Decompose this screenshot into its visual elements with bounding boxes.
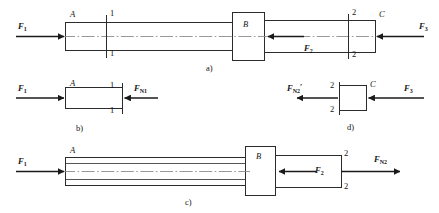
panel-d-prime-mark: ′ — [300, 82, 302, 92]
panel-d-section-label-2-top: 2 — [330, 81, 334, 90]
panel-b-section-label-1-top: 1 — [110, 81, 114, 90]
panel-a-geometry — [16, 13, 424, 61]
panel-a-block-b-label: B — [243, 20, 248, 29]
panel-a-section-label-2-top: 2 — [352, 8, 356, 17]
panel-d-point-c-label: C — [370, 80, 376, 89]
panel-c-caption: c) — [185, 198, 192, 207]
panel-c-block-b-label: B — [256, 152, 261, 161]
panel-d-force-f3-label: F3 — [404, 84, 413, 93]
panel-a-point-a-label: A — [70, 10, 75, 19]
panel-a-point-c-label: C — [379, 10, 385, 19]
panel-a-section-label-1-bottom: 1 — [110, 49, 114, 58]
panel-d-section-label-2-bottom: 2 — [330, 105, 334, 114]
panel-b-force-f1-label: F1 — [18, 84, 27, 93]
panel-c-force-fn2-label: FN2 — [374, 155, 387, 164]
panel-b-section-label-1-bottom: 1 — [110, 106, 114, 115]
panel-a-caption: a) — [206, 64, 213, 73]
panel-a-force-f3-label: F3 — [419, 22, 428, 31]
panel-b-force-fn1-label: FN1 — [134, 84, 147, 93]
panel-a-section-label-1-top: 1 — [110, 9, 114, 18]
panel-c-section-label-2-bottom: 2 — [344, 182, 348, 191]
panel-d-caption: d) — [347, 123, 354, 132]
panel-a-section-label-2-bottom: 2 — [352, 50, 356, 59]
panel-a-force-f2-label: F2 — [304, 44, 313, 53]
panel-c-force-f1-label: F1 — [18, 157, 27, 166]
panel-a-force-f1-label: F1 — [18, 22, 27, 31]
panel-c-section-label-2-top: 2 — [344, 149, 348, 158]
panel-c-point-a-label: A — [70, 146, 75, 155]
diagram-canvas — [0, 0, 439, 213]
panel-b-point-a-label: A — [70, 79, 75, 88]
panel-c-force-f2-label: F2 — [315, 166, 324, 175]
panel-b-caption: b) — [76, 124, 83, 133]
figure-root: F1 A 1 1 B F2 2 2 C F3 a) F1 A 1 1 FN1 b… — [0, 0, 439, 213]
panel-d-segment-box — [340, 86, 367, 111]
panel-d-force-fn2prime-label: FN2′ — [287, 84, 302, 93]
